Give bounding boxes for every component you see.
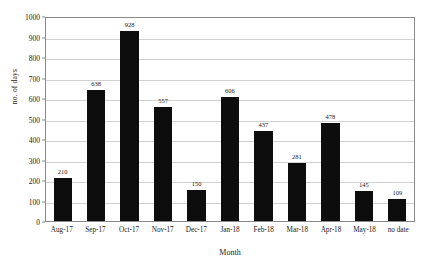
bar-slot: 281 bbox=[280, 18, 313, 221]
y-tick-mark bbox=[42, 222, 45, 223]
y-tick-mark bbox=[42, 201, 45, 202]
y-tick-mark bbox=[42, 78, 45, 79]
bar-value-label: 281 bbox=[292, 153, 302, 160]
bar[interactable]: 281 bbox=[288, 163, 306, 221]
bar-value-label: 210 bbox=[58, 168, 68, 175]
bar[interactable]: 606 bbox=[221, 97, 239, 221]
bar-value-label: 606 bbox=[225, 87, 235, 94]
bar-slot: 928 bbox=[113, 18, 146, 221]
bar-slot: 606 bbox=[213, 18, 246, 221]
x-axis-categories: Aug-17Sep-17Oct-17Nov-17Dec-17Jan-18Feb-… bbox=[45, 226, 415, 234]
bar[interactable]: 928 bbox=[120, 31, 138, 221]
y-tick-label: 100 bbox=[0, 197, 40, 206]
bar[interactable]: 557 bbox=[154, 107, 172, 221]
y-tick-mark bbox=[42, 58, 45, 59]
y-tick-mark bbox=[42, 99, 45, 100]
bar-value-label: 145 bbox=[359, 181, 369, 188]
bar-slot: 478 bbox=[314, 18, 347, 221]
y-tick-mark bbox=[42, 17, 45, 18]
bar[interactable]: 638 bbox=[87, 90, 105, 221]
y-tick-label: 900 bbox=[0, 33, 40, 42]
y-tick-mark bbox=[42, 119, 45, 120]
bar-value-label: 557 bbox=[158, 97, 168, 104]
y-tick-label: 0 bbox=[0, 218, 40, 227]
y-tick-label: 700 bbox=[0, 74, 40, 83]
x-tick-label: Mar-18 bbox=[280, 226, 314, 234]
bar-chart: no. of days 2106389285571506064372814781… bbox=[0, 0, 430, 267]
y-tick-mark bbox=[42, 140, 45, 141]
bar[interactable]: 109 bbox=[388, 199, 406, 221]
y-tick-label: 400 bbox=[0, 136, 40, 145]
bar-slot: 145 bbox=[347, 18, 380, 221]
bar-series: 210638928557150606437281478145109 bbox=[46, 18, 414, 221]
bar-value-label: 928 bbox=[125, 21, 135, 28]
y-tick-mark bbox=[42, 160, 45, 161]
x-tick-label: Nov-17 bbox=[146, 226, 180, 234]
x-tick-label: Feb-18 bbox=[247, 226, 281, 234]
bar-value-label: 150 bbox=[192, 180, 202, 187]
bar-slot: 557 bbox=[146, 18, 179, 221]
y-tick-mark bbox=[42, 181, 45, 182]
bar-slot: 150 bbox=[180, 18, 213, 221]
x-tick-label: Dec-17 bbox=[180, 226, 214, 234]
x-tick-label: Apr-18 bbox=[314, 226, 348, 234]
y-tick-label: 800 bbox=[0, 54, 40, 63]
bar-slot: 638 bbox=[79, 18, 112, 221]
x-tick-label: Sep-17 bbox=[79, 226, 113, 234]
y-tick-label: 600 bbox=[0, 95, 40, 104]
bar-value-label: 478 bbox=[325, 113, 335, 120]
y-tick-label: 200 bbox=[0, 177, 40, 186]
bar-slot: 109 bbox=[381, 18, 414, 221]
bar-value-label: 109 bbox=[392, 189, 402, 196]
bar-slot: 210 bbox=[46, 18, 79, 221]
bar[interactable]: 210 bbox=[54, 178, 72, 221]
bar[interactable]: 437 bbox=[254, 131, 272, 221]
bar-slot: 437 bbox=[247, 18, 280, 221]
x-tick-label: May-18 bbox=[348, 226, 382, 234]
y-tick-label: 300 bbox=[0, 156, 40, 165]
bar[interactable]: 478 bbox=[321, 123, 339, 221]
bar-value-label: 638 bbox=[91, 80, 101, 87]
x-tick-label: Aug-17 bbox=[45, 226, 79, 234]
x-tick-label: no date bbox=[381, 226, 415, 234]
bar-value-label: 437 bbox=[259, 121, 269, 128]
y-tick-label: 500 bbox=[0, 115, 40, 124]
bar[interactable]: 150 bbox=[187, 190, 205, 221]
x-tick-label: Oct-17 bbox=[112, 226, 146, 234]
x-tick-label: Jan-18 bbox=[213, 226, 247, 234]
x-axis-title: Month bbox=[45, 248, 415, 257]
y-tick-label: 1000 bbox=[0, 13, 40, 22]
plot-area: 210638928557150606437281478145109 bbox=[45, 17, 415, 222]
y-tick-mark bbox=[42, 37, 45, 38]
bar[interactable]: 145 bbox=[355, 191, 373, 221]
